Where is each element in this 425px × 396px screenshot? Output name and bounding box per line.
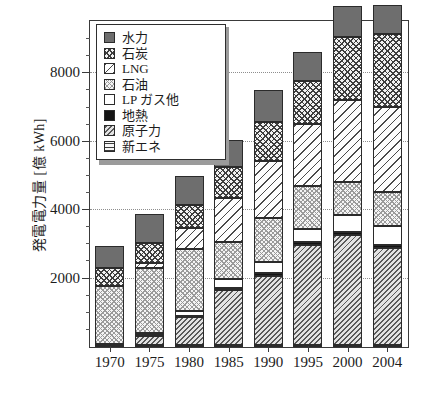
bar-segment-1990-石油 (254, 218, 283, 262)
x-tick-label-1980: 1980 (174, 354, 204, 371)
bar-segment-1990-LPガス他 (254, 262, 283, 273)
bar-segment-1980-LNG (175, 228, 204, 249)
x-tick-1980 (189, 346, 190, 352)
y-tick-label-6000: 6000 (50, 133, 80, 148)
solid-black-swatch-icon (104, 110, 115, 121)
bar-segment-2000-石油 (333, 182, 362, 215)
bar-segment-2000-LPガス他 (333, 215, 362, 232)
bar-segment-1975-石炭 (135, 243, 164, 263)
x-tick-2004 (387, 346, 388, 352)
x-tick-label-2004: 2004 (372, 354, 402, 371)
bar-segment-1970-水力 (95, 246, 124, 268)
solid-gray-swatch-icon (104, 32, 115, 43)
bar-segment-2004-LPガス他 (373, 226, 402, 245)
bar-segment-1995-石炭 (293, 81, 322, 124)
bar-segment-1995-石油 (293, 186, 322, 229)
legend-item-label: LNG (122, 62, 149, 75)
bar-segment-1970-石油 (95, 286, 124, 344)
y-minor-tick-500 (86, 329, 90, 330)
legend-item-4[interactable]: 石油 (104, 77, 219, 93)
legend-item-6[interactable]: 地熱 (104, 108, 219, 124)
bar-segment-1980-石油 (175, 249, 204, 311)
bar-segment-1985-石炭 (214, 167, 243, 198)
bar-segment-1980-水力 (175, 176, 204, 205)
bar-segment-1990-LNG (254, 161, 283, 218)
bar-segment-2000-地熱 (333, 232, 362, 235)
bar-segment-1990-原子力 (254, 276, 283, 345)
bar-segment-1975-原子力 (135, 336, 164, 345)
cross-hatch-swatch-icon (104, 48, 115, 59)
bar-1995 (293, 22, 322, 347)
electricity-generation-stacked-bar-chart: 発電電力量 [億 kWh] 20004000600080001970197519… (0, 0, 425, 396)
bar-segment-1995-LPガス他 (293, 229, 322, 243)
y-minor-tick-3500 (86, 226, 90, 227)
legend-item-2[interactable]: 石炭 (104, 46, 219, 62)
bar-segment-2004-石炭 (373, 34, 402, 107)
legend-item-5[interactable]: LP ガス他 (104, 92, 219, 108)
bar-2004 (373, 22, 402, 347)
bar-segment-2000-石炭 (333, 37, 362, 100)
white-swatch-icon (104, 94, 115, 105)
y-minor-tick-7500 (86, 89, 90, 90)
bar-segment-1995-原子力 (293, 245, 322, 345)
x-tick-label-1975: 1975 (134, 354, 164, 371)
y-axis-title: 発電電力量 [億 kWh] (28, 100, 48, 270)
y-minor-tick-5000 (86, 175, 90, 176)
bar-segment-1970-石炭 (95, 268, 124, 286)
bar-segment-2004-石油 (373, 192, 402, 227)
x-tick-2000 (348, 346, 349, 352)
horizontal-line-swatch-icon (104, 141, 115, 152)
bar-segment-1975-LNG (135, 263, 164, 268)
bar-2000 (333, 22, 362, 347)
x-tick-1995 (308, 346, 309, 352)
bar-segment-1985-原子力 (214, 290, 243, 345)
y-minor-tick-1000 (86, 312, 90, 313)
legend-item-8[interactable]: 新エネ (104, 139, 219, 155)
diagonal-hatch-swatch-icon (104, 125, 115, 136)
bar-segment-1990-石炭 (254, 122, 283, 161)
legend-item-label: 新エネ (122, 140, 161, 153)
x-tick-1985 (229, 346, 230, 352)
bar-segment-2004-地熱 (373, 245, 402, 248)
x-tick-label-1985: 1985 (214, 354, 244, 371)
chart-legend: 水力石炭LNG石油LP ガス他地熱原子力新エネ (96, 24, 226, 160)
x-tick-label-2000: 2000 (333, 354, 363, 371)
x-tick-1975 (149, 346, 150, 352)
x-tick-1970 (110, 346, 111, 352)
bar-segment-2000-水力 (333, 6, 362, 37)
y-tick-label-8000: 8000 (50, 65, 80, 80)
y-tick-label-2000: 2000 (50, 270, 80, 285)
legend-item-label: 地熱 (122, 109, 148, 122)
legend-item-7[interactable]: 原子力 (104, 123, 219, 139)
bar-segment-2004-原子力 (373, 248, 402, 344)
x-tick-1990 (268, 346, 269, 352)
legend-item-1[interactable]: 水力 (104, 30, 219, 46)
legend-item-label: 原子力 (122, 124, 161, 137)
bar-1990 (254, 22, 283, 347)
bar-segment-1975-LPガス他 (135, 333, 164, 335)
y-tick-8000 (82, 72, 90, 73)
y-tick-6000 (82, 141, 90, 142)
bar-segment-1980-LPガス他 (175, 311, 204, 315)
bar-segment-1995-地熱 (293, 242, 322, 245)
bar-segment-2000-LNG (333, 100, 362, 183)
bar-segment-1990-地熱 (254, 273, 283, 276)
bar-segment-2000-原子力 (333, 235, 362, 345)
bar-segment-1985-石油 (214, 242, 243, 279)
legend-item-label: 水力 (122, 31, 148, 44)
legend-item-label: 石油 (122, 78, 148, 91)
x-tick-label-1970: 1970 (95, 354, 125, 371)
bar-segment-2004-水力 (373, 5, 402, 34)
y-minor-tick-6500 (86, 124, 90, 125)
y-minor-tick-3000 (86, 243, 90, 244)
legend-item-label: LP ガス他 (122, 93, 179, 106)
y-minor-tick-8500 (86, 55, 90, 56)
legend-item-3[interactable]: LNG (104, 61, 219, 77)
bar-segment-1975-石油 (135, 268, 164, 333)
bar-segment-1985-LPガス他 (214, 279, 243, 289)
legend-item-label: 石炭 (122, 47, 148, 60)
y-tick-2000 (82, 278, 90, 279)
bar-segment-1985-LNG (214, 198, 243, 242)
bar-segment-1980-原子力 (175, 317, 204, 345)
y-minor-tick-7000 (86, 107, 90, 108)
